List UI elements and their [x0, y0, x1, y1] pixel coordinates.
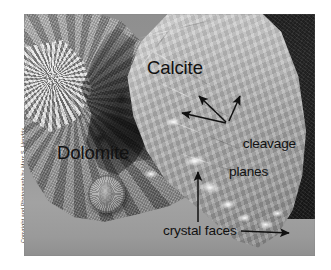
crystal-face-highlight [166, 118, 181, 126]
crystal-face-highlight [272, 210, 283, 217]
crystal-face-highlight [220, 200, 236, 209]
penny-scale-coin [88, 175, 125, 213]
crystal-face-highlight [258, 220, 273, 229]
coin-relief [99, 182, 113, 206]
figure-photograph: Copyright and Photograph by Marc S. Hend… [0, 0, 331, 270]
photo-canvas [24, 14, 315, 256]
crystal-face-highlight [144, 170, 158, 178]
crystal-face-highlight [184, 156, 206, 166]
crystal-face-highlight [200, 182, 220, 193]
crystal-face-highlight [238, 214, 251, 222]
